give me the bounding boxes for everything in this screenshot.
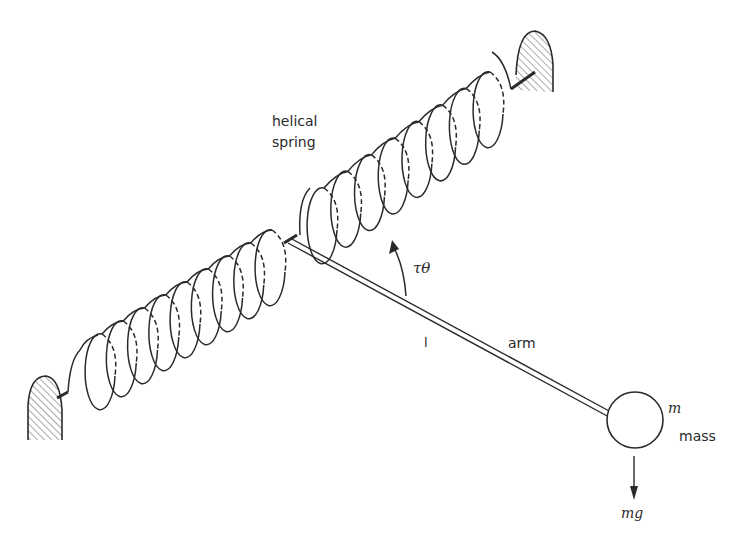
spring-coil-front: [149, 295, 179, 371]
torque-arrow: [389, 240, 406, 296]
spring-coil-front: [255, 230, 285, 306]
weight-label: mg: [621, 505, 643, 521]
arm-hub: [284, 235, 297, 243]
gravity-arrow: [630, 456, 638, 500]
right-wall-support: [492, 31, 553, 92]
torsion-pendulum-diagram: helical spring τθ l arm m mass mg: [0, 0, 744, 540]
spring-coil-front: [106, 321, 136, 397]
mass-label: mass: [679, 428, 716, 444]
spring-coil-front: [85, 334, 115, 410]
left-wall-support: [28, 376, 68, 440]
length-label: l: [424, 335, 428, 350]
torque-label: τθ: [413, 259, 430, 277]
spring-coil-back: [272, 230, 286, 272]
spring-coil-back: [490, 72, 504, 114]
arm-label: arm: [508, 335, 536, 351]
spring-coil-front: [128, 308, 158, 384]
spring-coil-front: [234, 243, 264, 319]
spring-coil-front: [170, 282, 200, 358]
mass-symbol-label: m: [668, 400, 681, 416]
spring-label-line2: spring: [272, 134, 316, 150]
spring-coil-front: [191, 269, 221, 345]
mass-ball: [607, 392, 663, 448]
right-helical-spring: [300, 72, 504, 264]
spring-coil-front: [213, 256, 243, 332]
left-helical-spring: [68, 230, 286, 410]
spring-label-line1: helical: [272, 113, 317, 129]
arm-rod: [284, 235, 611, 417]
spring-coil-front: [473, 72, 503, 148]
